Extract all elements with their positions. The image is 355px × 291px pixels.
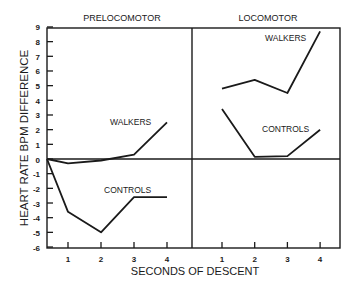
series-label-controls: CONTROLS [104,185,152,195]
heart-rate-chart: HEART RATE BPM DIFFERENCE SECONDS OF DES… [0,0,355,291]
svg-text:HEART RATE BPM DIFFERENCE: HEART RATE BPM DIFFERENCE [18,49,30,226]
y-tick-label: -6 [33,244,41,253]
x-tick-label: 2 [99,255,104,264]
series-line-controls [47,159,167,232]
y-tick-label: 6 [36,67,41,76]
x-tick-label: 4 [318,255,323,264]
x-tick-label: 2 [252,255,257,264]
plot-frame [47,28,340,248]
y-tick-label: 5 [36,82,41,91]
panel-title-locomotor: LOCOMOTOR [239,13,298,23]
y-tick-label: -1 [33,170,41,179]
y-tick-label: -3 [33,200,41,209]
series-label-walkers: WALKERS [110,117,152,127]
x-tick-label: 1 [220,255,225,264]
y-tick-label: 4 [36,97,41,106]
y-tick-label: -5 [33,229,41,238]
y-axis-ticks: 9876543210-1-2-3-4-5-6 [33,23,53,252]
y-tick-label: 2 [36,126,41,135]
x-axis-ticks: 12341234 [66,242,323,264]
series-line-walkers [47,122,167,163]
series-labels: WALKERSCONTROLSWALKERSCONTROLS [104,33,310,195]
y-tick-label: 0 [36,156,41,165]
panel-title-prelocomotor: PRELOCOMOTOR [83,13,161,23]
y-tick-label: 1 [36,141,41,150]
x-axis-label: SECONDS OF DESCENT [131,265,260,277]
x-tick-label: 4 [165,255,170,264]
y-axis-label: HEART RATE BPM DIFFERENCE [18,49,30,226]
y-tick-label: 7 [36,53,41,62]
x-tick-label: 3 [285,255,290,264]
x-tick-label: 3 [132,255,137,264]
y-tick-label: -2 [33,185,41,194]
y-tick-label: 9 [36,23,41,32]
y-tick-label: -4 [33,214,41,223]
series-label-walkers: WALKERS [265,33,307,43]
series-label-controls: CONTROLS [262,124,310,134]
y-tick-label: 8 [36,38,41,47]
x-tick-label: 1 [66,255,71,264]
y-tick-label: 3 [36,111,41,120]
